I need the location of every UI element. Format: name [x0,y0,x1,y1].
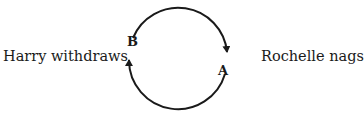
left-label-harry-withdraws: Harry withdraws [3,48,128,64]
arc-b-to-a [133,8,227,52]
arc-a-to-b [129,60,225,109]
right-label-rochelle-nags: Rochelle nags [261,48,364,64]
node-b: B [127,34,138,49]
node-a: A [218,63,228,78]
